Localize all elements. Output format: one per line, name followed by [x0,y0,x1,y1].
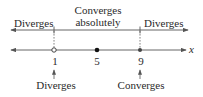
open-circle-point-1 [52,48,56,52]
filled-dot-point-9 [138,48,142,52]
tick-label-9: 9 [138,56,144,67]
region-label-middle-line2: absolutely [75,17,120,28]
convergence-number-line: Diverges Converges absolutely Diverges x… [0,0,203,97]
tick-label-1: 1 [52,56,58,67]
region-label-left: Diverges [14,18,54,29]
endpoint-note-1: Diverges [36,80,76,91]
axis-label-x: x [189,44,194,55]
tick-label-5: 5 [94,56,100,67]
region-label-middle-line1: Converges [75,5,122,16]
filled-dot-point-5 [95,48,100,53]
endpoint-note-9: Converges [118,80,165,91]
region-label-right: Diverges [144,18,184,29]
